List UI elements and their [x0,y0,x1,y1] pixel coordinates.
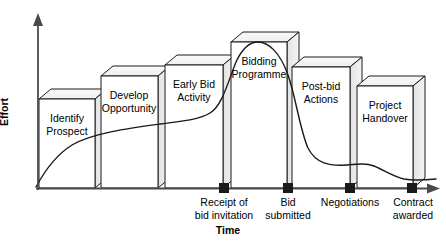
bar-identify-prospect [39,89,107,188]
effort-vs-time-diagram: Identify Prospect Develop Opportunity Ea… [0,0,446,246]
milestone-marker [283,183,293,193]
milestone-label-negotiations: Negotiations [313,196,387,209]
milestone-label-contract-awarded: Contract awarded [382,196,444,221]
milestone-marker [407,183,417,193]
milestone-marker [345,183,355,193]
bar-project-handover [357,76,425,188]
milestone-marker [219,183,229,193]
x-axis-title: Time [206,224,250,236]
bar-post-bid-actions [292,57,362,188]
bar-bidding-programme [231,32,299,188]
y-axis-title: Effort [0,110,36,126]
milestone-label-receipt-of-bid-invitation: Receipt of bid invitation [186,196,262,221]
